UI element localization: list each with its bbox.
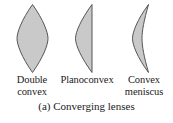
planoconvex-lens-shape [76,5,93,73]
label-convex-meniscus-line1: Convex [115,74,173,86]
label-planoconvex-line1: Planoconvex [51,74,123,86]
label-convex-meniscus-line2: meniscus [115,86,173,98]
double-convex-lens-shape [17,5,48,73]
convex-meniscus-lens-shape [133,5,149,73]
figure-caption: (a) Converging lenses [0,100,173,113]
label-planoconvex: Planoconvex [51,74,123,86]
converging-lenses-figure: Double convex Planoconvex Convex meniscu… [0,0,173,123]
label-double-convex-line2: convex [0,86,64,98]
lens-shapes-diagram [0,0,173,77]
label-convex-meniscus: Convex meniscus [115,74,173,97]
